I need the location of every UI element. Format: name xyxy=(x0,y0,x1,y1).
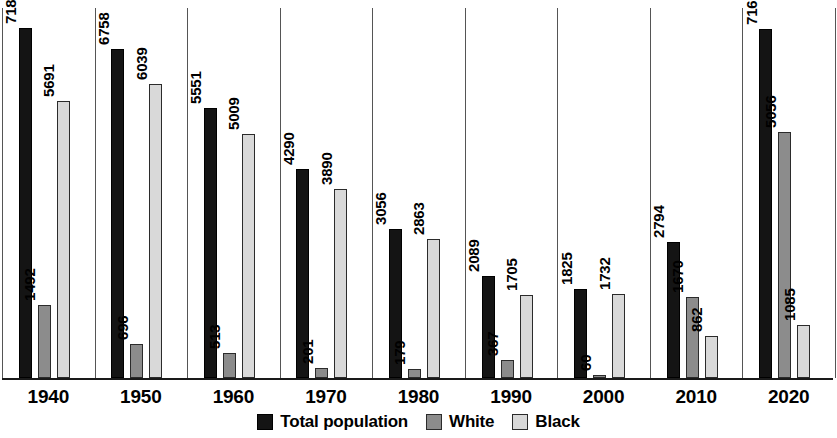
bar-slot: 201 xyxy=(315,8,328,378)
bar-group-2020: 716750561085 xyxy=(742,8,835,378)
x-tick-2000: 2000 xyxy=(557,386,650,408)
x-tick-2010: 2010 xyxy=(650,386,743,408)
bar-group-1950: 67586966039 xyxy=(95,8,188,378)
bar-value-label: 6039 xyxy=(134,47,149,80)
legend-item-black[interactable]: Black xyxy=(512,412,579,432)
bar-slot: 5056 xyxy=(778,8,791,378)
bar-1940-black[interactable] xyxy=(57,101,70,378)
bar-value-label: 60 xyxy=(578,355,593,371)
bar-value-label: 696 xyxy=(115,316,130,340)
bar-1960-white[interactable] xyxy=(223,353,236,378)
bar-slot: 5691 xyxy=(57,8,70,378)
legend-label: White xyxy=(449,412,494,432)
bar-value-label: 1085 xyxy=(782,289,797,322)
group-separator xyxy=(835,8,836,378)
bar-slot: 7183 xyxy=(19,8,32,378)
bar-slot: 179 xyxy=(408,8,421,378)
chart-legend: Total populationWhiteBlack xyxy=(0,412,837,432)
bar-slot: 4290 xyxy=(296,8,309,378)
bar-1990-black[interactable] xyxy=(520,295,533,378)
bar-value-label: 1825 xyxy=(559,253,574,286)
bar-value-label: 2794 xyxy=(651,205,666,238)
bar-value-label: 5056 xyxy=(763,95,778,128)
bar-1980-white[interactable] xyxy=(408,369,421,378)
bar-chart: 7183149256916758696603955515135009429020… xyxy=(0,0,837,438)
bar-2020-total-population[interactable] xyxy=(759,29,772,378)
bar-value-label: 5691 xyxy=(41,64,56,97)
bar-slot: 2863 xyxy=(427,8,440,378)
legend-label: Total population xyxy=(280,412,408,432)
bar-slot: 7167 xyxy=(759,8,772,378)
bar-value-label: 5551 xyxy=(188,71,203,104)
bar-slot: 5551 xyxy=(204,8,217,378)
bar-group-1990: 20893671705 xyxy=(465,8,558,378)
bar-slot: 862 xyxy=(705,8,718,378)
x-axis-line xyxy=(2,378,833,380)
bar-2000-black[interactable] xyxy=(612,294,625,378)
bar-group-1970: 42902013890 xyxy=(280,8,373,378)
bar-1950-black[interactable] xyxy=(149,84,162,378)
legend-item-total-population[interactable]: Total population xyxy=(257,412,408,432)
bar-1940-total-population[interactable] xyxy=(19,28,32,378)
bar-slot: 1705 xyxy=(520,8,533,378)
bar-group-1980: 30561792863 xyxy=(372,8,465,378)
bar-1970-black[interactable] xyxy=(334,189,347,378)
bar-group-1940: 718314925691 xyxy=(2,8,95,378)
plot-area: 7183149256916758696603955515135009429020… xyxy=(2,8,835,378)
legend-swatch-icon xyxy=(426,414,442,430)
bar-value-label: 3056 xyxy=(373,193,388,226)
bar-1940-white[interactable] xyxy=(38,305,51,378)
bar-value-label: 2863 xyxy=(411,202,426,235)
bar-value-label: 4290 xyxy=(281,133,296,166)
bar-slot: 5009 xyxy=(242,8,255,378)
bar-value-label: 6758 xyxy=(96,12,111,45)
bar-value-label: 1670 xyxy=(670,260,685,293)
legend-swatch-icon xyxy=(512,414,528,430)
bar-group-1960: 55515135009 xyxy=(187,8,280,378)
bar-1950-white[interactable] xyxy=(130,344,143,378)
x-tick-1950: 1950 xyxy=(95,386,188,408)
bar-slot: 3056 xyxy=(389,8,402,378)
bar-group-2010: 27941670862 xyxy=(650,8,743,378)
bar-slot: 367 xyxy=(501,8,514,378)
x-tick-2020: 2020 xyxy=(742,386,835,408)
x-tick-1940: 1940 xyxy=(2,386,95,408)
bar-1960-black[interactable] xyxy=(242,134,255,378)
bar-slot: 3890 xyxy=(334,8,347,378)
bar-slot: 1825 xyxy=(574,8,587,378)
bar-1980-black[interactable] xyxy=(427,239,440,378)
x-tick-1970: 1970 xyxy=(280,386,373,408)
bar-value-label: 1732 xyxy=(597,257,612,290)
bar-value-label: 2089 xyxy=(466,240,481,273)
bar-value-label: 1492 xyxy=(22,269,37,302)
bar-slot: 1085 xyxy=(797,8,810,378)
bar-value-label: 367 xyxy=(485,332,500,356)
bar-1990-total-population[interactable] xyxy=(482,276,495,378)
bar-value-label: 5009 xyxy=(226,98,241,131)
bar-slot: 60 xyxy=(593,8,606,378)
bar-2020-black[interactable] xyxy=(797,325,810,378)
bar-slot: 6039 xyxy=(149,8,162,378)
bar-value-label: 7167 xyxy=(744,0,759,25)
bar-value-label: 7183 xyxy=(3,0,18,24)
bar-1990-white[interactable] xyxy=(501,360,514,378)
bar-slot: 2089 xyxy=(482,8,495,378)
bar-value-label: 179 xyxy=(392,341,407,365)
bar-1970-white[interactable] xyxy=(315,368,328,378)
legend-item-white[interactable]: White xyxy=(426,412,494,432)
legend-swatch-icon xyxy=(257,414,273,430)
bar-value-label: 1705 xyxy=(504,258,519,291)
x-tick-1980: 1980 xyxy=(372,386,465,408)
bar-value-label: 201 xyxy=(300,340,315,364)
bar-slot: 513 xyxy=(223,8,236,378)
legend-label: Black xyxy=(535,412,579,432)
bar-2010-black[interactable] xyxy=(705,336,718,378)
bar-group-2000: 1825601732 xyxy=(557,8,650,378)
bar-slot: 2794 xyxy=(667,8,680,378)
bar-slot: 1732 xyxy=(612,8,625,378)
bar-2020-white[interactable] xyxy=(778,132,791,378)
x-tick-1960: 1960 xyxy=(187,386,280,408)
x-tick-1990: 1990 xyxy=(465,386,558,408)
bar-value-label: 862 xyxy=(689,308,704,332)
bar-value-label: 513 xyxy=(207,325,222,349)
